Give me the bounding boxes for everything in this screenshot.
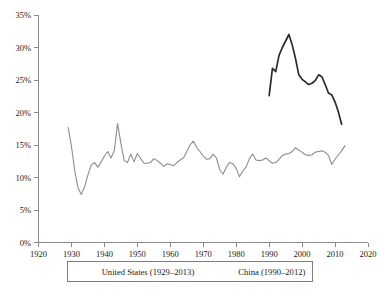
series-line-china [269,35,341,125]
x-tick-label: 2020 [360,249,377,259]
x-tick-label: 1930 [63,249,80,259]
y-tick-label: 20% [15,108,31,118]
x-tick-label: 1940 [96,249,113,259]
legend-entry-united-states: United States (1929–2013) [75,267,195,277]
line-chart-plot: 0%5%10%15%20%25%30%35% 19201930194019501… [0,0,379,296]
y-tick-label: 5% [20,205,31,215]
y-tick-label: 25% [15,75,31,85]
x-tick-label: 2000 [294,249,311,259]
x-tick-label: 1950 [129,249,146,259]
x-axis-ticks: 1920193019401950196019701980199020002010… [30,243,377,259]
y-tick-label: 30% [15,43,31,53]
y-tick-label: 35% [15,10,31,20]
x-tick-label: 1990 [261,249,278,259]
x-tick-label: 1970 [195,249,212,259]
y-tick-label: 10% [15,173,31,183]
legend-label-united-states: United States (1929–2013) [102,267,195,277]
x-tick-label: 2010 [327,249,344,259]
y-axis-ticks: 0%5%10%15%20%25%30%35% [15,10,38,248]
data-series-group [68,35,345,195]
legend-entry-china: China (1990–2012) [211,267,305,277]
x-tick-label: 1920 [30,249,47,259]
chart-figure: 0%5%10%15%20%25%30%35% 19201930194019501… [0,0,379,296]
chart-legend: United States (1929–2013) China (1990–20… [67,261,313,282]
x-tick-label: 1980 [228,249,245,259]
y-tick-label: 15% [15,140,31,150]
y-tick-label: 0% [20,238,31,248]
series-line-united-states [68,124,345,195]
legend-label-china: China (1990–2012) [238,267,305,277]
x-tick-label: 1960 [162,249,179,259]
